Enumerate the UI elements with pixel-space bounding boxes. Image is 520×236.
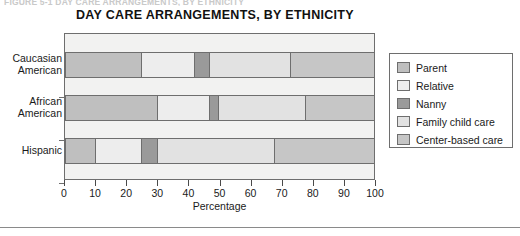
x-axis-tick-label: 20 [120, 187, 132, 199]
x-axis-tick-label: 40 [183, 187, 195, 199]
x-axis-tick-label: 80 [307, 187, 319, 199]
bar-segment [195, 52, 210, 78]
bar-segment [158, 138, 275, 164]
bar-segment [275, 138, 374, 164]
bar-segment [65, 95, 158, 121]
bar-row [65, 138, 374, 164]
figure-caption: FIGURE 5-1 DAY CARE ARRANGEMENTS, BY ETH… [4, 0, 334, 6]
x-axis-tick [220, 180, 221, 186]
bar-segment [65, 138, 96, 164]
x-axis-tick [282, 180, 283, 186]
y-axis-label-hispanic: Hispanic [4, 145, 62, 157]
legend-item: Parent [397, 59, 512, 76]
legend-swatch-icon [397, 98, 410, 109]
bar-segment [306, 95, 374, 121]
x-axis-tick-label: 100 [366, 187, 384, 199]
x-axis-tick [344, 180, 345, 186]
legend-item: Relative [397, 77, 512, 94]
bar-segment [96, 138, 142, 164]
legend-swatch-icon [397, 80, 410, 91]
bottom-divider [0, 227, 520, 228]
x-axis-tick [64, 180, 65, 186]
x-axis-tick-label: 90 [338, 187, 350, 199]
chart-title: DAY CARE ARRANGEMENTS, BY ETHNICITY [0, 8, 430, 22]
legend-item-label: Family child care [416, 116, 495, 128]
bar-segment [210, 95, 219, 121]
legend-item-label: Center-based care [416, 134, 503, 146]
x-axis-tick [313, 180, 314, 186]
bar-segment [142, 52, 195, 78]
legend-swatch-icon [397, 134, 410, 145]
bar-segment [291, 52, 374, 78]
x-axis-tick [188, 180, 189, 186]
x-axis-tick-label: 30 [151, 187, 163, 199]
x-axis-tick-label: 60 [245, 187, 257, 199]
y-axis-labels: Caucasian American African American Hisp… [0, 33, 62, 180]
x-axis-tick [375, 180, 376, 186]
x-axis-tick-label: 10 [89, 187, 101, 199]
bar-row [65, 52, 374, 78]
x-axis-tick-label: 0 [61, 187, 67, 199]
x-axis-tick [157, 180, 158, 186]
legend-item-label: Relative [416, 80, 454, 92]
bar-row [65, 95, 374, 121]
legend-item: Center-based care [397, 131, 512, 148]
legend-item-label: Nanny [416, 98, 446, 110]
x-axis-tick [126, 180, 127, 186]
legend-swatch-icon [397, 116, 410, 127]
plot-area [64, 33, 375, 180]
legend-item-label: Parent [416, 62, 447, 74]
bar-segment [158, 95, 211, 121]
bar-segment [219, 95, 306, 121]
x-axis-tick-label: 50 [214, 187, 226, 199]
x-axis-tick [95, 180, 96, 186]
legend-swatch-icon [397, 62, 410, 73]
legend-item: Nanny [397, 95, 512, 112]
y-axis-label-caucasian-american: Caucasian American [4, 53, 62, 76]
chart-legend: ParentRelativeNannyFamily child careCent… [389, 53, 513, 148]
bar-segment [65, 52, 142, 78]
legend-item: Family child care [397, 113, 512, 130]
y-axis-label-african-american: African American [4, 96, 62, 119]
bar-segment [210, 52, 290, 78]
x-axis-title: Percentage [64, 200, 375, 212]
x-axis-tick-label: 70 [276, 187, 288, 199]
x-axis-tick [251, 180, 252, 186]
bar-segment [142, 138, 157, 164]
